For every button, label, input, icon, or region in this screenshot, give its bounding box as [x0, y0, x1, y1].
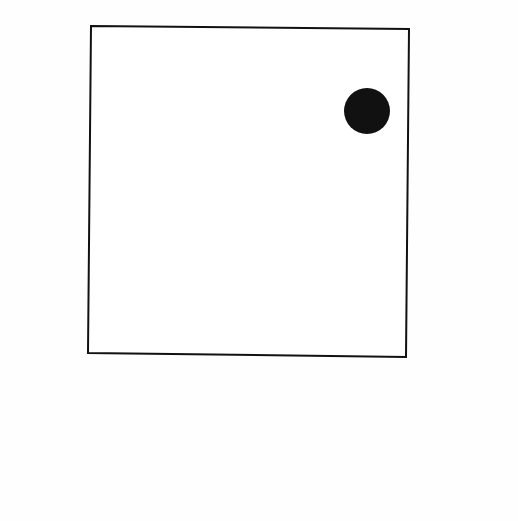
filled-dot — [344, 88, 390, 134]
drawing-canvas — [0, 0, 518, 521]
square-outline — [88, 26, 409, 357]
